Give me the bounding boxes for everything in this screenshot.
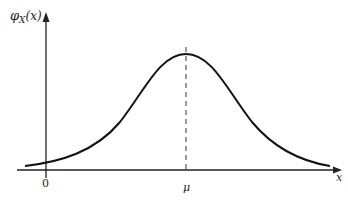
mu-label: μ	[183, 181, 190, 194]
chart: φX(x) 0 μ x	[0, 0, 348, 200]
origin-label: 0	[42, 177, 49, 190]
density-curve	[25, 54, 330, 166]
y-axis-arrow-icon	[43, 12, 50, 22]
y-axis-label: φX(x)	[10, 8, 42, 25]
x-axis-label: x	[336, 171, 343, 184]
